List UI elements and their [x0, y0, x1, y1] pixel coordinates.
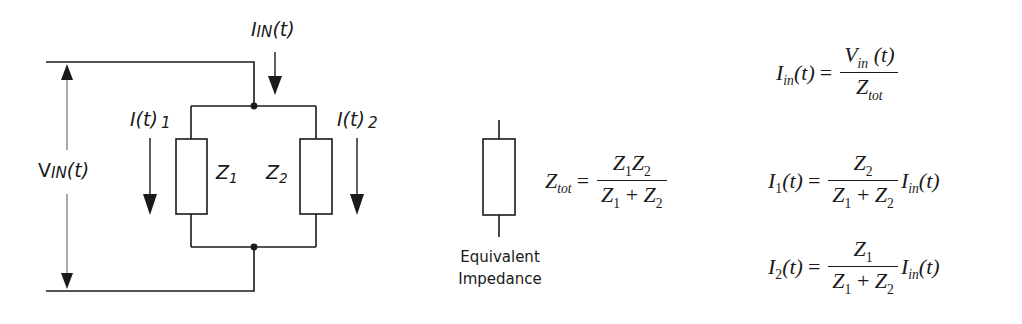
equation-branch2-current: I2(t) = Z1 Z1 + Z2 Iin(t)	[768, 236, 940, 297]
label-main: I(t)	[130, 108, 158, 130]
subscript: 1	[845, 282, 852, 297]
operator: +	[626, 182, 638, 207]
symbol: Z	[832, 268, 844, 293]
denominator: Z1 + Z2	[828, 181, 898, 211]
label-main: I(t)	[337, 108, 365, 130]
input-current-label: IIN(t)	[251, 18, 295, 40]
argument: (t)	[782, 168, 803, 193]
label-main: V	[38, 159, 51, 181]
symbol: Z	[545, 168, 557, 193]
equivalent-impedance-caption: Equivalent Impedance	[455, 246, 545, 290]
label-arg: (t)	[272, 18, 294, 40]
ztot-fraction: Z1Z2 Z1 + Z2	[597, 150, 667, 211]
subscript: 2	[887, 282, 894, 297]
label-sub: 1	[229, 170, 238, 186]
symbol: Z	[856, 74, 868, 99]
symbol: Z	[613, 150, 625, 175]
subscript: in	[908, 181, 919, 196]
label-sub: IN	[257, 23, 273, 41]
branch2-current-label: I(t) 2	[337, 108, 378, 130]
branch1-current-arrow-icon	[143, 194, 157, 215]
subscript: 1	[613, 196, 620, 211]
lhs: I1(t)	[768, 168, 803, 194]
bottom-wire	[46, 247, 254, 291]
top-wire	[46, 62, 254, 106]
impedance-z1-label: Z1	[216, 161, 238, 183]
label-main: I	[251, 18, 257, 40]
symbol: Z	[632, 150, 644, 175]
argument: (t)	[919, 254, 940, 279]
symbol: Z	[875, 182, 887, 207]
subscript: in	[908, 267, 919, 282]
subscript: 2	[887, 196, 894, 211]
label-arg: (t)	[67, 159, 89, 181]
argument: (t)	[782, 254, 803, 279]
voltage-arrow-down-icon	[61, 273, 73, 289]
voltage-arrow-up-icon	[61, 64, 73, 80]
denominator: Ztot	[840, 73, 898, 103]
numerator: Vin (t)	[840, 42, 898, 73]
subscript: 1	[775, 181, 782, 196]
symbol: Z	[644, 182, 656, 207]
equation-input-current: Iin(t) = Vin (t) Ztot	[776, 42, 901, 103]
label-sub: 2	[368, 114, 378, 132]
equals-sign: =	[808, 254, 820, 280]
branch1-current-label: I(t) 1	[130, 108, 171, 130]
subscript: in	[858, 56, 869, 71]
symbol: Z	[832, 182, 844, 207]
parallel-impedance-diagram: IIN(t) VIN(t) I(t) 1 I(t) 2 Z1 Z2 Equiva…	[0, 0, 1022, 324]
equation-branch1-current: I1(t) = Z2 Z1 + Z2 Iin(t)	[768, 150, 940, 211]
subscript: 1	[866, 250, 873, 265]
operator: +	[857, 268, 869, 293]
numerator: Z1	[828, 236, 898, 267]
argument: (t)	[794, 60, 815, 85]
input-current-arrow-icon	[268, 76, 282, 95]
lhs: Iin(t)	[776, 60, 815, 86]
label-sub: IN	[51, 164, 67, 182]
impedance-z2-label: Z2	[266, 161, 288, 183]
subscript: tot	[557, 181, 571, 196]
numerator: Z1Z2	[597, 150, 667, 181]
input-voltage-label: VIN(t)	[36, 159, 91, 181]
lhs: I2(t)	[768, 254, 803, 280]
argument: (t)	[919, 168, 940, 193]
ztot-formula: Ztot = Z1Z2 Z1 + Z2	[545, 150, 670, 211]
argument: (t)	[874, 42, 895, 67]
symbol: Z	[854, 150, 866, 175]
label-main: Z	[266, 161, 279, 183]
label-sub: 2	[279, 170, 288, 186]
ztot-lhs: Ztot	[545, 168, 572, 194]
label-sub: 1	[161, 114, 171, 132]
operator: +	[857, 182, 869, 207]
equivalent-impedance-symbol	[483, 139, 515, 215]
symbol: Z	[875, 268, 887, 293]
caption-line-2: Impedance	[455, 268, 545, 290]
factor: Iin(t)	[901, 168, 940, 194]
subscript: 2	[656, 196, 663, 211]
symbol: Z	[601, 182, 613, 207]
label-main: Z	[216, 161, 229, 183]
subscript: 1	[845, 196, 852, 211]
fraction: Z2 Z1 + Z2	[828, 150, 898, 211]
equals-sign: =	[820, 60, 832, 86]
symbol: V	[844, 42, 857, 67]
denominator: Z1 + Z2	[597, 181, 667, 211]
equals-sign: =	[577, 168, 589, 194]
subscript: 2	[644, 164, 651, 179]
fraction: Z1 Z1 + Z2	[828, 236, 898, 297]
numerator: Z2	[828, 150, 898, 181]
subscript: 2	[866, 164, 873, 179]
factor: Iin(t)	[901, 254, 940, 280]
symbol: Z	[854, 236, 866, 261]
subscript: in	[783, 73, 794, 88]
subscript: 1	[625, 164, 632, 179]
equals-sign: =	[808, 168, 820, 194]
subscript: tot	[868, 88, 882, 103]
impedance-z2-symbol	[300, 139, 332, 214]
denominator: Z1 + Z2	[828, 267, 898, 297]
top-junction-node	[251, 103, 258, 110]
fraction: Vin (t) Ztot	[840, 42, 898, 103]
caption-line-1: Equivalent	[455, 246, 545, 268]
impedance-z1-symbol	[176, 139, 207, 214]
bottom-junction-node	[251, 244, 258, 251]
